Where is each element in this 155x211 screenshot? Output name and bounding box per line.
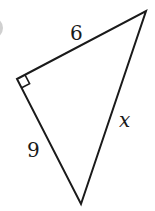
side-label-hypotenuse: x [119,108,130,132]
side-label-left: 9 [27,138,40,162]
side-label-top: 6 [70,21,83,45]
triangle-diagram: 6 9 x [0,0,155,211]
problem-number-badge [0,17,3,39]
